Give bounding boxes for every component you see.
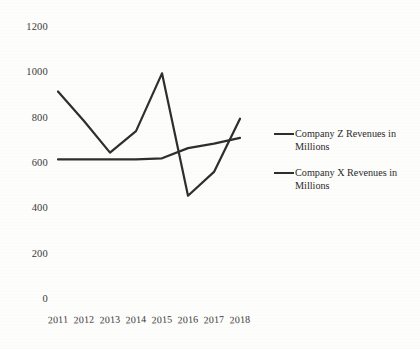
y-tick-1200: 1200 xyxy=(8,21,48,32)
y-tick-400: 400 xyxy=(8,202,48,213)
legend-label-company-z: Company Z Revenues in Millions xyxy=(295,128,413,153)
legend-swatch-company-x xyxy=(274,172,294,174)
legend-label-company-x: Company X Revenues in Millions xyxy=(295,167,413,192)
y-tick-600: 600 xyxy=(8,157,48,168)
y-tick-1000: 1000 xyxy=(8,66,48,77)
y-tick-200: 200 xyxy=(8,248,48,259)
legend-swatch-company-z xyxy=(274,133,294,135)
x-tick-2018: 2018 xyxy=(225,313,256,326)
revenue-line-chart: 020040060080010001200 201120122013201420… xyxy=(0,0,420,349)
y-tick-800: 800 xyxy=(8,112,48,123)
chart-legend: Company Z Revenues in Millions Company X… xyxy=(274,128,420,206)
series-line-company-x xyxy=(58,138,240,160)
series-line-company-z xyxy=(58,73,240,195)
legend-item-company-x: Company X Revenues in Millions xyxy=(274,167,420,192)
legend-item-company-z: Company Z Revenues in Millions xyxy=(274,128,420,153)
y-tick-0: 0 xyxy=(8,293,48,304)
